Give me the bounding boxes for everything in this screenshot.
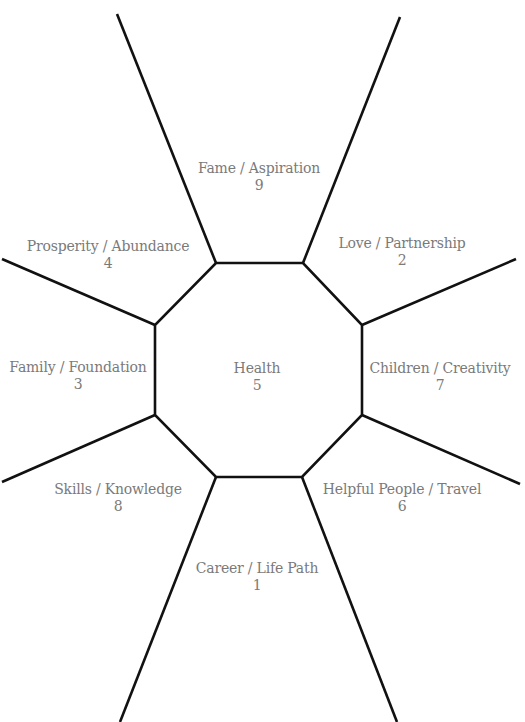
zone-label: Skills / Knowledge — [54, 481, 182, 497]
zone-fame: Fame / Aspiration 9 — [198, 160, 320, 194]
zone-label: Fame / Aspiration — [198, 160, 320, 176]
zone-prosperity: Prosperity / Abundance 4 — [27, 238, 189, 272]
spoke-right-lower — [362, 415, 520, 484]
zone-number: 1 — [196, 577, 319, 594]
bagua-diagram: Fame / Aspiration 9 Love / Partnership 2… — [0, 0, 525, 722]
zone-number: 5 — [234, 377, 281, 394]
spoke-top-right — [303, 17, 400, 263]
zone-number: 8 — [54, 498, 182, 515]
zone-label: Health — [234, 360, 281, 376]
zone-label: Prosperity / Abundance — [27, 238, 189, 254]
spoke-left-lower — [2, 415, 155, 482]
zone-label: Helpful People / Travel — [323, 481, 481, 497]
zone-label: Love / Partnership — [338, 235, 465, 251]
zone-number: 9 — [198, 177, 320, 194]
spoke-top-left — [117, 14, 216, 263]
zone-number: 4 — [27, 255, 189, 272]
zone-love: Love / Partnership 2 — [338, 235, 465, 269]
zone-number: 7 — [369, 377, 510, 394]
zone-children: Children / Creativity 7 — [369, 360, 510, 394]
zone-label: Children / Creativity — [369, 360, 510, 376]
zone-helpful-people: Helpful People / Travel 6 — [323, 481, 481, 515]
zone-number: 3 — [9, 376, 146, 393]
zone-label: Career / Life Path — [196, 560, 319, 576]
zone-family: Family / Foundation 3 — [9, 359, 146, 393]
zone-career: Career / Life Path 1 — [196, 560, 319, 594]
zone-number: 2 — [338, 252, 465, 269]
zone-number: 6 — [323, 498, 481, 515]
zone-health-center: Health 5 — [234, 360, 281, 394]
zone-skills: Skills / Knowledge 8 — [54, 481, 182, 515]
zone-label: Family / Foundation — [9, 359, 146, 375]
